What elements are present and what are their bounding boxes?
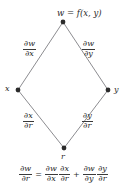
node-label-w-arguments: (x, y) bbox=[80, 8, 102, 18]
equation-term2-fraction-2: ∂y ∂r bbox=[97, 165, 108, 184]
edge-label-dw-dy-denominator: ∂y bbox=[82, 50, 95, 59]
node-label-y: y bbox=[114, 86, 119, 94]
edge-label-dw-dx: ∂w ∂x bbox=[23, 40, 36, 59]
node-label-w-equals: = bbox=[64, 8, 77, 18]
node-dot-x bbox=[16, 88, 21, 93]
node-label-w: w = f(x, y) bbox=[57, 9, 102, 18]
equation-term-2: ∂w ∂y ∂y ∂r bbox=[83, 165, 108, 184]
edge-label-dx-dr-denominator: ∂r bbox=[23, 122, 34, 131]
edge-label-dw-dy: ∂w ∂y bbox=[82, 40, 95, 59]
edge-label-dx-dr: ∂x ∂r bbox=[23, 112, 34, 131]
node-dot-w bbox=[61, 20, 66, 25]
equation-term2-fraction-1-denominator: ∂y bbox=[83, 175, 96, 184]
equation-plus-sign: + bbox=[72, 170, 81, 179]
equation-term1-fraction-1-denominator: ∂x bbox=[45, 175, 58, 184]
equation-lhs-denominator: ∂r bbox=[19, 175, 32, 184]
figure-canvas: w = f(x, y) x y r ∂w ∂x ∂w ∂y ∂x ∂r ∂y ∂… bbox=[0, 0, 127, 196]
equation-equals-sign: = bbox=[34, 170, 43, 179]
edge-label-dy-dr: ∂y ∂r bbox=[82, 112, 93, 131]
equation-term1-fraction-2-denominator: ∂r bbox=[59, 175, 70, 184]
equation-term1-fraction-2: ∂x ∂r bbox=[59, 165, 70, 184]
node-label-x: x bbox=[5, 85, 10, 93]
node-dot-y bbox=[106, 88, 111, 93]
equation-term2-fraction-2-denominator: ∂r bbox=[97, 175, 108, 184]
edge-label-dw-dx-denominator: ∂x bbox=[23, 50, 36, 59]
equation-term1-fraction-1: ∂w ∂x bbox=[45, 165, 58, 184]
chain-rule-equation: ∂w ∂r = ∂w ∂x ∂x ∂r + ∂w ∂y ∂y ∂r bbox=[0, 165, 127, 184]
equation-lhs-fraction: ∂w ∂r bbox=[19, 165, 32, 184]
node-label-r: r bbox=[61, 153, 65, 161]
equation-term2-fraction-1: ∂w ∂y bbox=[83, 165, 96, 184]
edge-label-dy-dr-denominator: ∂r bbox=[82, 122, 93, 131]
equation-term-1: ∂w ∂x ∂x ∂r bbox=[45, 165, 70, 184]
node-dot-r bbox=[62, 146, 67, 151]
